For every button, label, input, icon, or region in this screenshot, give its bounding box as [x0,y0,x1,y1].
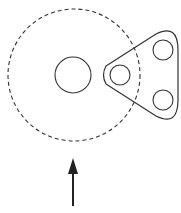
background [0,0,181,213]
mechanism-diagram [0,0,181,213]
